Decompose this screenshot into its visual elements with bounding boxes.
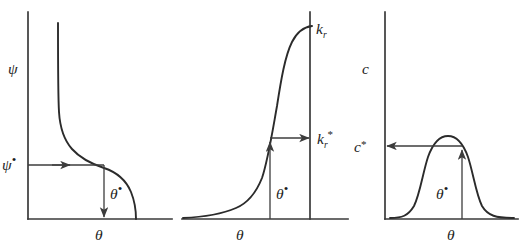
psi-axis-label: ψ	[8, 60, 18, 77]
relative-conductivity-panel: kr kr* θ• θ	[178, 0, 350, 252]
theta-axis-label: θ	[236, 226, 244, 243]
relative-conductivity-plot: kr kr* θ• θ	[178, 0, 350, 252]
kr-axis-label: kr	[316, 20, 327, 40]
c-axis-label: c	[362, 60, 369, 77]
kr-star-label: kr*	[317, 128, 333, 150]
retention-curve	[58, 23, 136, 219]
water-retention-plot: ψ ψ• θ• θ	[0, 0, 178, 252]
c-star-label: c*	[354, 138, 366, 155]
capacity-bell-curve	[390, 136, 514, 218]
figure-root: ψ ψ• θ• θ	[0, 0, 522, 252]
conductivity-curve	[183, 26, 312, 218]
theta-dot-label: θ•	[276, 181, 288, 202]
theta-axis-label: θ	[447, 226, 455, 243]
psi-star-label: ψ•	[2, 152, 16, 173]
theta-dot-label: θ•	[110, 181, 122, 202]
theta-dot-label: θ•	[436, 181, 448, 202]
water-retention-panel: ψ ψ• θ• θ	[0, 0, 178, 252]
theta-axis-label: θ	[95, 226, 103, 243]
specific-capacity-plot: c c* θ• θ	[350, 0, 522, 252]
specific-capacity-panel: c c* θ• θ	[350, 0, 522, 252]
